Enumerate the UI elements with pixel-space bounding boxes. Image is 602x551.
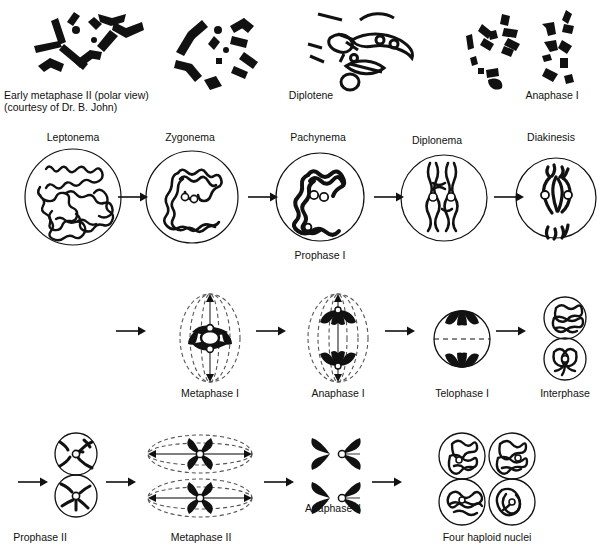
micrograph-diplotene bbox=[288, 6, 438, 90]
micrograph-label-early-metaphase-ii: Early metaphase II (polar view) bbox=[4, 89, 149, 102]
stage-label-prophase-ii: Prophase II bbox=[13, 531, 67, 544]
group-label-prophase-i: Prophase I bbox=[295, 249, 346, 262]
stage-label-anaphase-i: Anaphase I bbox=[311, 387, 364, 400]
stage-figure-diplonema bbox=[396, 149, 492, 247]
stage-figure-telophase-i bbox=[424, 296, 500, 382]
stage-label-four-haploid-nuclei: Four haploid nuclei bbox=[443, 531, 532, 544]
stage-figure-diakinesis bbox=[512, 149, 600, 247]
stage-label-telophase-i: Telophase I bbox=[435, 387, 489, 400]
stage-label-interphase: Interphase bbox=[540, 387, 590, 400]
stage-label-leptonema: Leptonema bbox=[47, 131, 100, 144]
micrograph-label-diplotene: Diplotene bbox=[289, 89, 333, 102]
stage-label-zygonema: Zygonema bbox=[165, 131, 215, 144]
micrograph-credit-early-metaphase-ii: (courtesy of Dr. B. John) bbox=[4, 101, 117, 114]
arrow-anaphase-ii-to-four-haploid-nuclei bbox=[372, 476, 402, 488]
stage-figure-prophase-ii bbox=[40, 432, 112, 520]
micrograph-diplotene-left-cluster bbox=[158, 6, 278, 92]
stage-figure-interphase bbox=[530, 296, 600, 382]
stage-figure-anaphase-i bbox=[296, 292, 380, 384]
stage-figure-leptonema bbox=[12, 147, 134, 247]
arrow-anaphase-i-to-telophase-i bbox=[385, 325, 415, 337]
micrograph-anaphase-i-left bbox=[458, 6, 530, 92]
stage-label-pachynema: Pachynema bbox=[290, 131, 345, 144]
arrow-metaphase-i-to-anaphase-i bbox=[256, 325, 286, 337]
stage-label-metaphase-i: Metaphase I bbox=[181, 387, 239, 400]
stage-label-diakinesis: Diakinesis bbox=[527, 131, 575, 144]
arrow-prophase-ii-to-metaphase-ii bbox=[106, 476, 136, 488]
stage-label-diplonema: Diplonema bbox=[412, 134, 462, 147]
stage-figure-pachynema bbox=[272, 147, 368, 247]
stage-label-anaphase-ii: Anaphase II bbox=[305, 502, 361, 515]
micrograph-early-metaphase-ii bbox=[14, 6, 154, 86]
micrograph-label-anaphase-i: Anaphase I bbox=[525, 89, 578, 102]
arrow-telophase-i-to-interphase bbox=[496, 325, 526, 337]
micrograph-anaphase-i-right bbox=[534, 6, 594, 92]
stage-figure-metaphase-i bbox=[168, 292, 252, 384]
arrow-to-metaphase-i bbox=[116, 325, 146, 337]
stage-figure-four-haploid-nuclei bbox=[434, 432, 540, 526]
arrow-metaphase-ii-to-anaphase-ii bbox=[264, 476, 294, 488]
stage-figure-zygonema bbox=[142, 147, 242, 247]
stage-figure-metaphase-ii bbox=[140, 432, 260, 522]
stage-label-metaphase-ii: Metaphase II bbox=[171, 531, 232, 544]
